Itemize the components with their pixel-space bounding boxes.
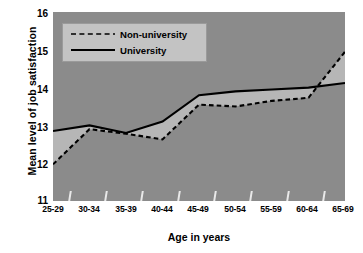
y-tick-label-15: 15 — [18, 47, 48, 57]
chart-container: Mean level of job satisfaction 16 15 14 … — [0, 0, 363, 253]
dashed-line-icon — [71, 29, 115, 39]
x-axis-title: Age in years — [53, 231, 345, 243]
chart-legend: Non-university University — [62, 23, 207, 62]
legend-label-non-university: Non-university — [120, 29, 187, 40]
y-tick-label-12: 12 — [18, 160, 48, 170]
x-tick-label-65-69: 65-69 — [320, 204, 363, 214]
legend-item-university: University — [71, 43, 166, 57]
y-tick-label-16: 16 — [18, 9, 48, 19]
solid-line-icon — [71, 45, 115, 55]
legend-label-university: University — [120, 45, 166, 56]
y-tick-label-13: 13 — [18, 123, 48, 133]
y-tick-label-14: 14 — [18, 85, 48, 95]
legend-item-non-university: Non-university — [71, 27, 187, 41]
